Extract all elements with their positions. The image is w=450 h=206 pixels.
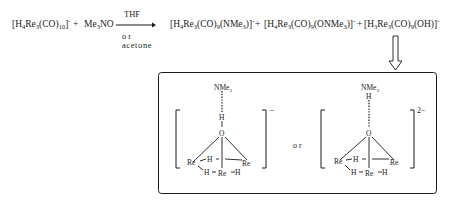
structure-box xyxy=(159,73,437,194)
re-left-label: Re xyxy=(334,157,343,166)
re-left-label: Re xyxy=(187,158,196,167)
h-bridge-right-label: H xyxy=(235,168,241,177)
h-label: H xyxy=(219,113,225,122)
re-bottom-label: Re xyxy=(218,169,227,178)
left-bracket xyxy=(176,110,180,168)
o-label: O xyxy=(219,129,225,138)
nme3-label: NMe3 xyxy=(214,83,232,93)
o-label: O xyxy=(366,129,372,138)
charge-label: − xyxy=(269,105,274,115)
h-bridge-left-label: H xyxy=(351,168,357,177)
or-connector: or xyxy=(293,141,304,150)
reaction-arrow xyxy=(116,23,156,28)
re-bottom-label: Re xyxy=(365,169,374,178)
h-bridge-top-label: H xyxy=(353,155,359,164)
charge-label: 2− xyxy=(417,106,426,115)
right-bracket xyxy=(410,110,414,168)
re-right-label: Re xyxy=(242,159,251,168)
h-bridge-left-label: H xyxy=(204,168,210,177)
h-label: H xyxy=(366,92,372,101)
diagram-graphics: NMe3 H O Re H Re H Re H − or NMe3 H O Re… xyxy=(0,0,450,206)
h-bridge-right-label: H xyxy=(382,168,388,177)
right-bracket xyxy=(262,110,266,168)
left-bracket xyxy=(321,110,325,168)
h-bridge-top-label: H xyxy=(207,155,213,164)
down-arrow-icon xyxy=(389,36,402,70)
re-right-label: Re xyxy=(390,158,399,167)
